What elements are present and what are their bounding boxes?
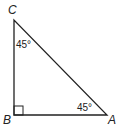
vertex-label-a: A [107,113,116,127]
angle-label-c: 45° [16,39,31,50]
vertex-label-b: B [3,113,11,127]
triangle-abc [14,20,107,115]
vertex-label-c: C [8,3,17,17]
right-angle-marker [14,106,23,115]
angle-label-a: 45° [77,102,92,113]
triangle-diagram: C B A 45° 45° [0,0,120,131]
